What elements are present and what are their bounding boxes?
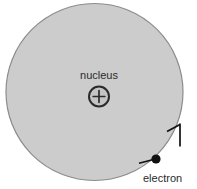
atom-diagram-canvas: nucleus electron <box>0 0 197 189</box>
atom-diagram-figure: nucleus electron <box>0 0 197 189</box>
electron-label: electron <box>143 172 182 184</box>
nucleus-label: nucleus <box>80 69 118 81</box>
electron-dot <box>151 154 160 163</box>
